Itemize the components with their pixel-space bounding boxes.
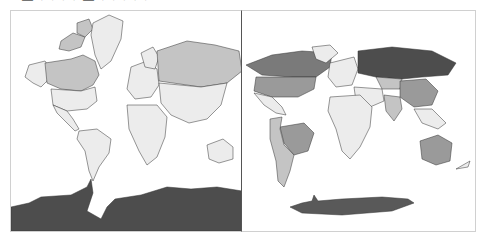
canada-islands-2 [77, 19, 93, 37]
new-zealand [456, 161, 470, 169]
europe [328, 57, 358, 87]
compromise-map [242, 11, 475, 231]
russia [358, 47, 456, 79]
canada-islands [59, 33, 85, 51]
southeast-asia [414, 109, 446, 129]
africa [328, 95, 372, 159]
central-asia [376, 77, 402, 89]
greenland [91, 15, 123, 69]
figure-caption-cropped: — · · · · — · · · · · [0, 0, 483, 8]
canada [45, 55, 99, 91]
antarctica [11, 179, 242, 231]
map-panel-mercator [10, 10, 242, 232]
india [384, 95, 402, 121]
antarctica [290, 195, 414, 215]
caption-text: — · · · · — · · · · · [22, 0, 150, 5]
usa [254, 77, 316, 97]
asia [159, 83, 227, 123]
china [400, 79, 438, 107]
africa [127, 105, 167, 165]
russia [157, 41, 242, 87]
australia [207, 139, 233, 163]
mercator-map [11, 11, 242, 231]
australia [420, 135, 452, 165]
map-panel-compromise [241, 10, 476, 232]
south-america [77, 129, 111, 181]
